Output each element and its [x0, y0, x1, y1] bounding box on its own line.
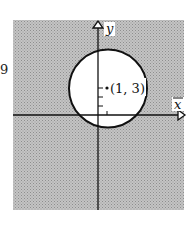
- center-point: [105, 86, 108, 89]
- x-axis-label: x: [174, 97, 182, 112]
- y-axis-label: y: [105, 21, 114, 36]
- graph: (1, 3) y x: [0, 0, 196, 225]
- center-point-label: (1, 3): [110, 81, 145, 96]
